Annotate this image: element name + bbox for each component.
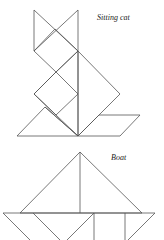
boat-label: Boat [111,153,126,162]
hull-diagonal-2 [67,213,94,240]
chest-square-left [34,72,78,115]
body-large-triangle [78,51,120,136]
tail-parallelogram [78,115,140,136]
hull-left-edge [3,213,30,240]
tangram-diagram [0,0,164,240]
boat-figure [3,152,155,240]
lower-diagonal [45,107,78,136]
lower-left-triangle [17,107,78,136]
hull-diagonal-1 [33,213,60,240]
chest-triangle [34,51,78,136]
sitting-cat-figure [17,10,140,136]
head-square [34,29,78,72]
sitting-cat-label: Sitting cat [97,13,130,22]
hull-right-edge [128,213,155,240]
